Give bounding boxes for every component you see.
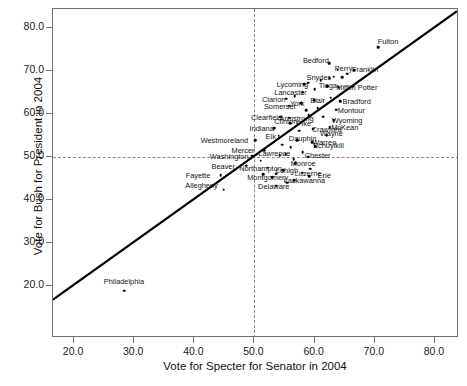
y-tick-label: 50.0 <box>6 149 44 161</box>
data-point <box>339 100 342 103</box>
data-point-label: Blair <box>310 95 325 104</box>
data-point-label: Indiana <box>250 124 274 133</box>
scatter-plot-figure: Vote for Bush for President in 2004 Vote… <box>0 0 467 386</box>
x-tick-mark <box>434 337 435 343</box>
data-point <box>251 155 254 158</box>
data-point <box>319 79 322 82</box>
data-point-label: Chester <box>305 151 331 160</box>
x-tick-label: 30.0 <box>108 345 158 357</box>
data-point <box>286 181 289 184</box>
plot-canvas: PhiladelphiaAlleghenyFayetteBeaverWashin… <box>53 9 457 336</box>
data-point <box>309 167 312 170</box>
x-tick-label: 70.0 <box>349 345 399 357</box>
y-tick-label: 20.0 <box>6 278 44 290</box>
x-axis-title: Vote for Specter for Senator in 2004 <box>52 360 458 372</box>
data-point-label: Mercer <box>232 146 255 155</box>
data-point <box>284 153 287 156</box>
data-point <box>316 107 319 110</box>
x-tick-label: 20.0 <box>48 345 98 357</box>
data-point-label: Tioga <box>319 81 337 90</box>
y-tick-label: 40.0 <box>6 192 44 204</box>
data-point <box>223 188 226 191</box>
data-point <box>293 95 296 98</box>
data-point-label: Fayette <box>186 171 211 180</box>
x-tick-mark <box>374 337 375 343</box>
data-point <box>351 86 354 89</box>
data-point <box>275 172 278 175</box>
data-point-label: Franklin <box>352 64 378 73</box>
data-point <box>346 72 349 75</box>
data-point <box>254 139 257 142</box>
y-tick-label: 80.0 <box>6 20 44 32</box>
data-point-label: Lancaster <box>274 88 306 97</box>
data-point <box>123 289 126 292</box>
data-point-label: York <box>290 99 305 108</box>
data-point <box>301 151 304 154</box>
x-tick-label: 50.0 <box>228 345 278 357</box>
data-point <box>341 76 344 79</box>
x-tick-mark <box>193 337 194 343</box>
data-point-label: Westmoreland <box>201 136 249 145</box>
data-point <box>281 144 284 147</box>
data-point-label: Clearfield <box>251 112 282 121</box>
data-point-label: Philadelphia <box>104 277 144 286</box>
data-point <box>313 88 316 91</box>
y-tick-label: 70.0 <box>6 63 44 75</box>
data-point <box>330 96 333 99</box>
data-point <box>298 129 301 132</box>
data-point-label: Snyder <box>307 73 330 82</box>
data-point <box>377 46 380 49</box>
data-point <box>292 158 295 161</box>
data-point <box>277 135 280 138</box>
data-point-label: Allegheny <box>185 181 217 190</box>
y-axis-title: Vote for Bush for President in 2004 <box>32 46 44 286</box>
x-tick-mark <box>314 337 315 343</box>
y-tick-label: 60.0 <box>6 106 44 118</box>
data-point-label: Bradford <box>343 97 371 106</box>
data-point-label: Erie <box>318 171 331 180</box>
x-tick-mark <box>133 337 134 343</box>
data-point-label: Montour <box>338 105 365 114</box>
data-point <box>259 160 262 163</box>
x-tick-label: 80.0 <box>409 345 459 357</box>
data-point <box>262 173 265 176</box>
data-point-label: Warren <box>312 138 336 147</box>
x-tick-label: 60.0 <box>289 345 339 357</box>
data-point-label: Beaver <box>212 161 235 170</box>
data-point-label: Elk <box>266 131 276 140</box>
data-point-label: Lycoming <box>277 80 308 89</box>
x-tick-label: 40.0 <box>168 345 218 357</box>
data-point <box>322 115 325 118</box>
x-tick-mark <box>73 337 74 343</box>
plot-area: PhiladelphiaAlleghenyFayetteBeaverWashin… <box>52 8 458 337</box>
x-tick-mark <box>253 337 254 343</box>
data-point <box>289 146 292 149</box>
data-point-label: Fulton <box>378 37 399 46</box>
data-point <box>305 109 308 112</box>
data-point-label: Bedford <box>303 56 329 65</box>
data-point <box>308 175 311 178</box>
data-point-label: Potter <box>358 82 378 91</box>
data-point <box>307 114 310 117</box>
data-point-label: Wyoming <box>332 116 363 125</box>
y-tick-label: 30.0 <box>6 235 44 247</box>
data-point <box>307 81 310 84</box>
data-point <box>220 174 223 177</box>
data-point <box>333 75 336 78</box>
data-point-label: Perry <box>335 64 353 73</box>
